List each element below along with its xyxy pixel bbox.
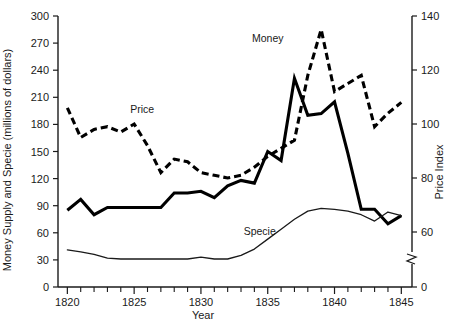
series-line-price: [67, 30, 401, 179]
x-axis-tick-label: 1835: [255, 296, 279, 308]
y-axis-left-tick-label: 90: [37, 200, 49, 212]
bottom-axis: 182018251830183518401845: [55, 287, 413, 308]
x-axis-tick-label: 1840: [322, 296, 346, 308]
y-axis-left-tick-label: 300: [31, 10, 49, 22]
series-label-price: Price: [130, 103, 154, 115]
y-axis-left-tick-label: 30: [37, 254, 49, 266]
series-line-money: [67, 78, 401, 223]
y-axis-right-tick-label: 60: [421, 226, 433, 238]
data-series-group: [67, 30, 401, 260]
x-axis-title: Year: [192, 309, 215, 321]
y-axis-left-tick-label: 180: [31, 118, 49, 130]
x-axis-tick-label: 1830: [189, 296, 213, 308]
y-axis-left-tick-label: 60: [37, 227, 49, 239]
y-axis-right-tick-label: 0: [421, 281, 427, 293]
y-axis-left-tick-label: 240: [31, 64, 49, 76]
y-axis-left-tick-label: 210: [31, 91, 49, 103]
x-axis-tick-label: 1820: [55, 296, 79, 308]
y-axis-right-title: Price Index: [433, 144, 445, 200]
y-axis-right-tick-label: 120: [421, 64, 439, 76]
y-axis-left-tick-label: 150: [31, 146, 49, 158]
y-axis-right-tick-label: 80: [421, 172, 433, 184]
left-axis: 0306090120150180210240270300: [31, 10, 58, 293]
y-axis-left-title: Money Supply and Specie (millions of dol…: [1, 49, 13, 272]
series-annotations: MoneyPriceSpecie: [130, 32, 284, 236]
y-axis-left-tick-label: 120: [31, 173, 49, 185]
series-label-specie: Specie: [244, 225, 276, 237]
y-axis-right-tick-label: 100: [421, 118, 439, 130]
x-axis-tick-label: 1825: [122, 296, 146, 308]
chart-container: 0306090120150180210240270300 06080100120…: [0, 0, 451, 324]
y-axis-left-tick-label: 270: [31, 37, 49, 49]
y-axis-left-tick-label: 0: [43, 281, 49, 293]
series-label-money: Money: [252, 32, 284, 44]
x-axis-tick-label: 1845: [389, 296, 413, 308]
series-line-specie: [67, 208, 401, 259]
chart-figure: 0306090120150180210240270300 06080100120…: [0, 0, 451, 324]
y-axis-right-tick-label: 140: [421, 10, 439, 22]
